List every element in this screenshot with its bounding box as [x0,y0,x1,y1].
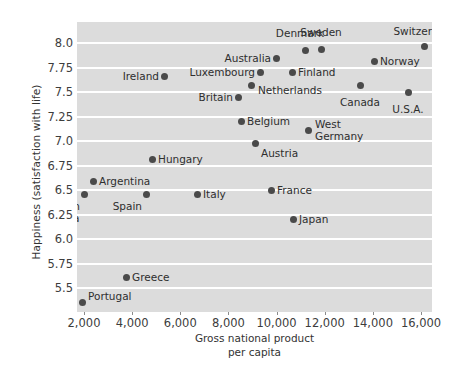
x-tick-label: 4,000 [116,316,149,330]
data-point-australia[interactable] [273,55,280,62]
y-tick-label: 7.5 [33,85,73,99]
gridline-6 [77,238,432,240]
point-label: Argentina [99,175,150,187]
x-tick-label: 12,000 [305,316,345,330]
gridline-5-75 [77,263,432,265]
data-point-greece[interactable] [123,274,130,281]
plot-area: SwitzerlandSwedenDenmarkAustraliaNorwayL… [77,22,432,312]
y-tick-label: 5.5 [33,281,73,295]
gridline-8 [77,42,432,44]
point-label: Japan [299,213,328,225]
data-point-portugal[interactable] [79,299,86,306]
x-tick-label: 16,000 [401,316,441,330]
x-axis-title: Gross national product per capita [77,331,432,359]
y-tick-label: 6.75 [33,159,73,173]
point-label: Norway [380,55,420,67]
x-tick-label: 8,000 [212,316,245,330]
y-axis-ticks: 5.55.756.06.256.56.757.07.257.57.758.0 [28,22,73,312]
data-point-sweden[interactable] [318,46,325,53]
point-label: Luxembourg [190,66,255,78]
x-tick-mark [180,312,181,315]
data-point-spain[interactable] [143,191,150,198]
data-point-hungary[interactable] [149,156,156,163]
data-point-italy[interactable] [194,191,201,198]
y-tick-label: 5.75 [33,257,73,271]
point-label: Denmark [276,27,324,39]
x-tick-mark [373,312,374,315]
point-label: Switzerland [393,25,432,37]
x-tick-label: 14,000 [353,316,393,330]
data-point-netherlands[interactable] [248,82,255,89]
y-tick-label: 6.0 [33,232,73,246]
x-tick-mark [421,312,422,315]
x-tick-mark [228,312,229,315]
y-tick-label: 8.0 [33,36,73,50]
x-tick-label: 10,000 [256,316,296,330]
point-label: Greece [132,271,169,283]
x-tick-mark [132,312,133,315]
data-point-luxembourg[interactable] [257,69,264,76]
gridline-6-75 [77,165,432,167]
data-point-france[interactable] [268,187,275,194]
gridline-7-5 [77,91,432,93]
data-point-denmark[interactable] [302,47,309,54]
x-axis-title-line1: Gross national product [77,331,432,345]
y-tick-label: 6.5 [33,183,73,197]
y-tick-label: 7.0 [33,134,73,148]
data-point-canada[interactable] [357,82,364,89]
gridline-6-5 [77,189,432,191]
point-label: U.S.A. [392,103,423,115]
y-tick-label: 6.25 [33,208,73,222]
x-axis-title-line2: per capita [77,345,432,359]
point-label: Australia [225,52,271,64]
x-tick-mark [325,312,326,315]
data-point-switzerland[interactable] [421,43,428,50]
data-point-argentina[interactable] [90,178,97,185]
point-label: Italy [203,188,226,200]
data-point-austria[interactable] [252,140,259,147]
scatter-chart: Happiness (satisfaction with life) Switz… [0,0,458,365]
gridline-5-5 [77,287,432,289]
x-tick-label: 6,000 [164,316,197,330]
data-point-britain[interactable] [235,94,242,101]
data-point-finland[interactable] [289,69,296,76]
point-label: Hungary [158,153,203,165]
x-tick-label: 2,000 [68,316,101,330]
point-label: South Africa [77,200,80,224]
point-label: France [277,184,312,196]
point-label: Ireland [123,70,159,82]
y-tick-label: 7.75 [33,61,73,75]
data-point-japan[interactable] [290,216,297,223]
point-label: Britain [198,91,233,103]
point-label: Canada [340,96,380,108]
point-label: Spain [113,200,142,212]
data-point-west-germany[interactable] [305,127,312,134]
x-tick-mark [84,312,85,315]
gridline-6-25 [77,214,432,216]
y-tick-label: 7.25 [33,110,73,124]
data-point-norway[interactable] [371,58,378,65]
data-point-u-s-a[interactable] [405,89,412,96]
point-label: Portugal [88,290,132,302]
point-label: Belgium [247,115,290,127]
point-label: West Germany [315,118,363,142]
data-point-ireland[interactable] [161,73,168,80]
point-label: Finland [298,66,336,78]
point-label: Austria [261,147,298,159]
point-label: Netherlands [258,84,322,96]
data-point-belgium[interactable] [238,118,245,125]
data-point-south-africa[interactable] [81,191,88,198]
x-tick-mark [277,312,278,315]
